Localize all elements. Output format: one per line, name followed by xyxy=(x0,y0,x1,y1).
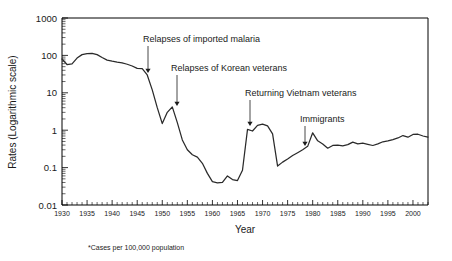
y-tick-label: 1000 xyxy=(36,13,57,24)
x-tick-label: 1995 xyxy=(380,210,396,217)
malaria-rate-line-chart: 10001001010.10.01 1930193519401945195019… xyxy=(0,0,452,261)
x-tick-label: 1930 xyxy=(54,210,70,217)
x-tick-label: 1940 xyxy=(104,210,120,217)
x-tick-label: 1950 xyxy=(154,210,170,217)
chart-figure: 10001001010.10.01 1930193519401945195019… xyxy=(0,0,452,261)
y-tick-label: 0.01 xyxy=(39,200,58,211)
y-tick-label: 100 xyxy=(41,50,57,61)
x-tick-label: 1955 xyxy=(180,210,196,217)
annotation-label: Returning Vietnam veterans xyxy=(245,88,357,98)
y-tick-label: 0.1 xyxy=(44,162,57,173)
annotation-label: Relapses of Korean veterans xyxy=(171,63,288,73)
x-tick-label: 1970 xyxy=(255,210,271,217)
x-tick-label: 1960 xyxy=(205,210,221,217)
annotation-label: Immigrants xyxy=(300,114,345,124)
x-tick-label: 1975 xyxy=(280,210,296,217)
x-tick-label: 1935 xyxy=(79,210,95,217)
x-tick-label: 1990 xyxy=(355,210,371,217)
annotation-label: Relapses of imported malaria xyxy=(143,34,260,44)
y-tick-label: 1 xyxy=(52,125,57,136)
x-tick-label: 1985 xyxy=(330,210,346,217)
x-tick-label: 2000 xyxy=(405,210,421,217)
x-axis-title: Year xyxy=(235,224,256,235)
y-axis-title: Rates (Logarithmic scale) xyxy=(7,55,18,168)
y-tick-label: 10 xyxy=(46,87,57,98)
footnote-text: *Cases per 100,000 population xyxy=(88,244,184,252)
x-tick-label: 1980 xyxy=(305,210,321,217)
x-tick-label: 1965 xyxy=(230,210,246,217)
x-tick-label: 1945 xyxy=(129,210,145,217)
